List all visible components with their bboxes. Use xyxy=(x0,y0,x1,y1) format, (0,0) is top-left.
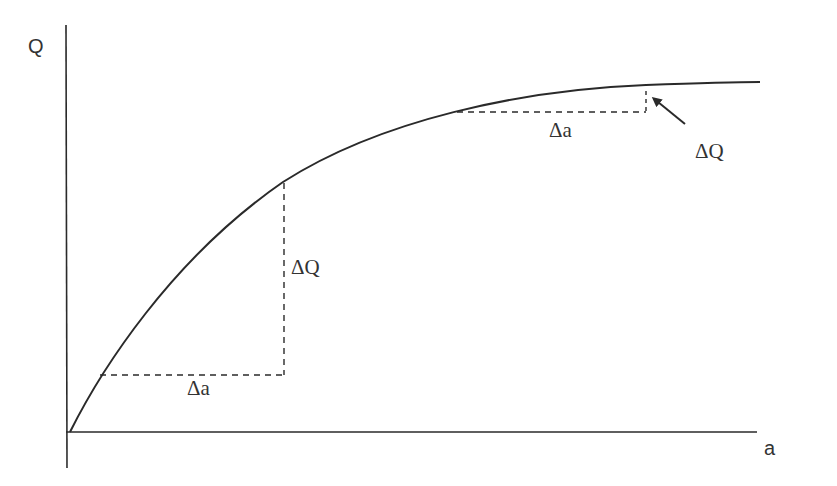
y-axis xyxy=(66,25,67,468)
lower-delta-a-label: Δa xyxy=(187,378,210,399)
y-axis-label: Q xyxy=(28,36,44,56)
x-axis-label: a xyxy=(764,438,775,458)
upper-delta-a-label: Δa xyxy=(549,120,572,141)
lower-delta-q-label: ΔQ xyxy=(291,257,320,278)
upper-delta-q-label: ΔQ xyxy=(695,141,724,162)
q-curve xyxy=(70,82,760,432)
delta-q-arrow xyxy=(658,102,685,124)
diagram-canvas xyxy=(0,0,837,486)
